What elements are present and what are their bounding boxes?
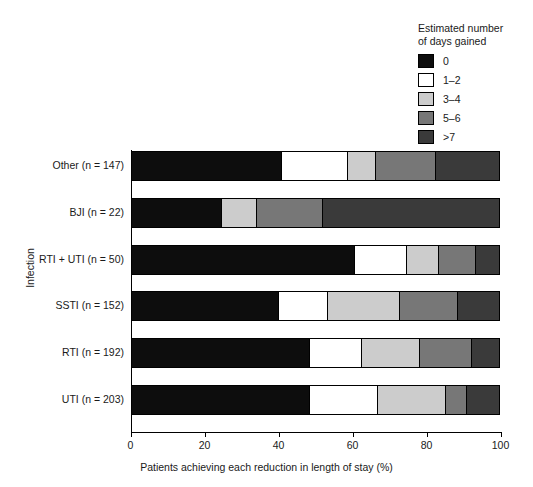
legend-item-label: >7 bbox=[443, 131, 455, 143]
x-axis-tick bbox=[427, 432, 428, 437]
bar-segment bbox=[348, 151, 376, 181]
x-axis-tick bbox=[353, 432, 354, 437]
bar-row bbox=[131, 151, 501, 181]
bar-segment bbox=[378, 385, 446, 415]
bar-segment bbox=[310, 385, 378, 415]
bar-row bbox=[131, 198, 501, 228]
y-axis-title: Infection bbox=[24, 233, 36, 303]
plot-area bbox=[131, 150, 501, 432]
bar-segment bbox=[131, 385, 311, 415]
y-axis-line bbox=[131, 150, 132, 433]
x-axis-title: Patients achieving each reduction in len… bbox=[0, 461, 533, 473]
bar-segment bbox=[131, 151, 283, 181]
x-axis-tick bbox=[279, 432, 280, 437]
x-axis-tick bbox=[205, 432, 206, 437]
x-axis-tick-label: 100 bbox=[492, 439, 510, 451]
bar-segment bbox=[131, 245, 356, 275]
bar-segment bbox=[407, 245, 439, 275]
bar-segment bbox=[436, 151, 500, 181]
x-axis-tick-label: 20 bbox=[199, 439, 211, 451]
bar-segment bbox=[458, 291, 500, 321]
x-axis-line bbox=[131, 432, 502, 433]
bar-segment bbox=[131, 338, 311, 368]
bar-row bbox=[131, 245, 501, 275]
legend-item-label: 0 bbox=[443, 55, 449, 67]
legend-item-label: 3–4 bbox=[443, 93, 461, 105]
legend-item: 5–6 bbox=[418, 109, 533, 127]
x-axis-tick-label: 0 bbox=[128, 439, 134, 451]
y-axis-tick-label: SSTI (n = 152) bbox=[0, 299, 124, 311]
bar-segment bbox=[439, 245, 477, 275]
legend-swatch-icon bbox=[418, 73, 434, 87]
x-axis-tick bbox=[501, 432, 502, 437]
bar-segment bbox=[476, 245, 500, 275]
bar-segment bbox=[446, 385, 467, 415]
bar-segment bbox=[131, 291, 279, 321]
legend-swatch-icon bbox=[418, 92, 434, 106]
bar-segment bbox=[279, 291, 329, 321]
legend-entries: 01–23–45–6>7 bbox=[418, 52, 533, 146]
legend-item: >7 bbox=[418, 128, 533, 146]
legend-swatch-icon bbox=[418, 111, 434, 125]
bar-segment bbox=[355, 245, 406, 275]
legend-swatch-icon bbox=[418, 54, 434, 68]
x-axis-tick-label: 40 bbox=[273, 439, 285, 451]
bar-segment bbox=[467, 385, 500, 415]
legend-item: 1–2 bbox=[418, 71, 533, 89]
y-axis-category-labels: Other (n = 147)BJI (n = 22)RTI + UTI (n … bbox=[0, 0, 124, 487]
y-axis-tick-label: Other (n = 147) bbox=[0, 159, 124, 171]
legend: Estimated number of days gained 01–23–45… bbox=[418, 22, 533, 147]
bar-segment bbox=[420, 338, 472, 368]
legend-item: 0 bbox=[418, 52, 533, 70]
bar-segment bbox=[328, 291, 399, 321]
legend-item-label: 1–2 bbox=[443, 74, 461, 86]
bar-segment bbox=[222, 198, 257, 228]
legend-item-label: 5–6 bbox=[443, 112, 461, 124]
bar-segment bbox=[376, 151, 436, 181]
bar-segment bbox=[131, 198, 222, 228]
y-axis-tick-label: BJI (n = 22) bbox=[0, 206, 124, 218]
y-axis-tick-label: UTI (n = 203) bbox=[0, 393, 124, 405]
bar-segment bbox=[257, 198, 324, 228]
bar-row bbox=[131, 338, 501, 368]
bar-row bbox=[131, 291, 501, 321]
bar-segment bbox=[362, 338, 419, 368]
bar-segment bbox=[323, 198, 500, 228]
bar-row bbox=[131, 385, 501, 415]
bar-segment bbox=[310, 338, 362, 368]
x-axis-tick-label: 80 bbox=[421, 439, 433, 451]
legend-swatch-icon bbox=[418, 130, 434, 144]
y-axis-tick-label: RTI (n = 192) bbox=[0, 346, 124, 358]
x-axis-tick bbox=[131, 432, 132, 437]
x-axis-tick-label: 60 bbox=[347, 439, 359, 451]
bar-segment bbox=[282, 151, 347, 181]
bar-segment bbox=[472, 338, 501, 368]
bar-segment bbox=[400, 291, 458, 321]
y-axis-tick-label: RTI + UTI (n = 50) bbox=[0, 253, 124, 265]
legend-title: Estimated number of days gained bbox=[418, 22, 533, 48]
legend-item: 3–4 bbox=[418, 90, 533, 108]
